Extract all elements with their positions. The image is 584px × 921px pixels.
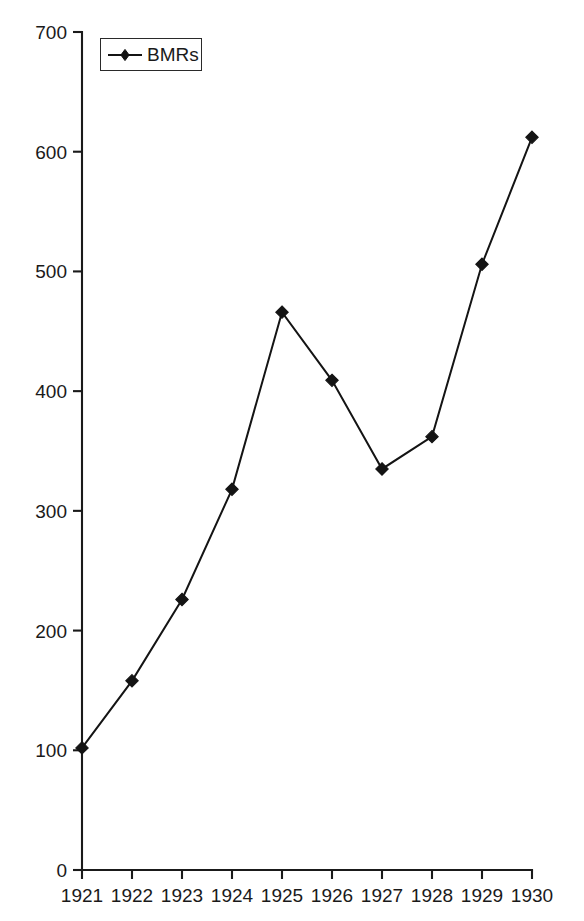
data-point-marker — [376, 463, 388, 475]
y-axis-tick-labels: 0100200300400500600700 — [35, 22, 67, 881]
y-tick-label: 500 — [35, 261, 67, 282]
data-point-marker — [526, 131, 538, 143]
x-tick-label: 1925 — [261, 885, 303, 906]
x-tick-label: 1921 — [61, 885, 103, 906]
y-tick-label: 700 — [35, 22, 67, 43]
y-tick-label: 300 — [35, 501, 67, 522]
series-line-bmrs — [82, 137, 532, 748]
y-tick-label: 400 — [35, 381, 67, 402]
y-tick-label: 100 — [35, 740, 67, 761]
x-tick-label: 1929 — [461, 885, 503, 906]
x-tick-label: 1924 — [211, 885, 254, 906]
data-point-marker — [426, 430, 438, 442]
y-tick-label: 200 — [35, 621, 67, 642]
x-tick-label: 1926 — [311, 885, 353, 906]
x-tick-label: 1928 — [411, 885, 453, 906]
y-tick-label: 0 — [56, 860, 67, 881]
data-point-marker — [176, 593, 188, 605]
x-axis-tick-labels: 1921192219231924192519261927192819291930 — [61, 885, 553, 906]
x-tick-label: 1927 — [361, 885, 403, 906]
x-tick-label: 1922 — [111, 885, 153, 906]
legend: BMRs — [100, 38, 202, 71]
line-chart-plot: 0100200300400500600700 19211922192319241… — [0, 0, 584, 921]
x-tick-label: 1923 — [161, 885, 203, 906]
y-tick-label: 600 — [35, 142, 67, 163]
x-axis-tick-marks — [82, 870, 532, 879]
chart-figure: 0100200300400500600700 19211922192319241… — [0, 0, 584, 921]
data-point-marker — [226, 483, 238, 495]
legend-marker-icon — [108, 48, 142, 62]
legend-label-bmrs: BMRs — [147, 45, 199, 64]
data-point-marker — [476, 258, 488, 270]
x-tick-label: 1930 — [511, 885, 553, 906]
